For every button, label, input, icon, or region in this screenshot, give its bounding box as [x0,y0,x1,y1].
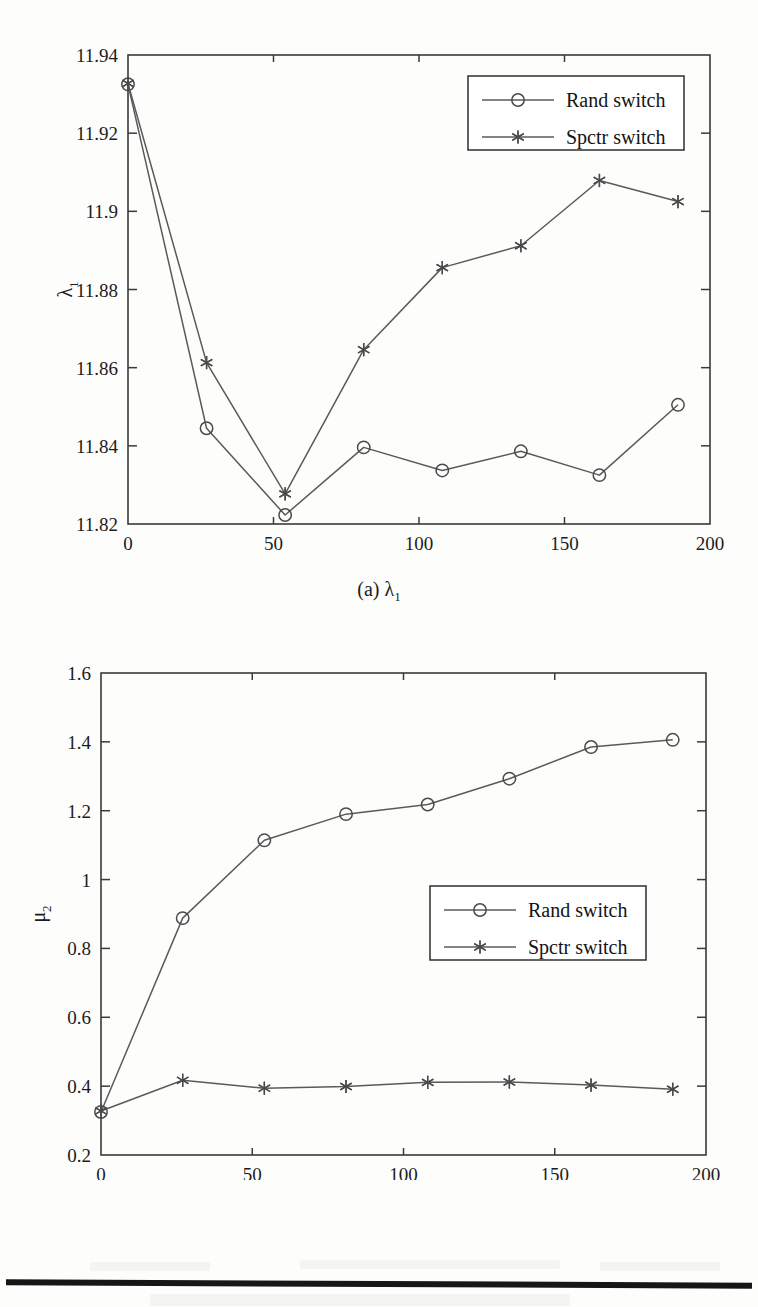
y-tick-label: 0.8 [67,938,91,959]
plot-area-a: 05010015020011.8211.8411.8611.8811.911.9… [0,0,758,560]
y-tick-label: 11.92 [76,123,118,144]
legend-label-1: Rand switch [528,899,627,921]
data-point-asterisk [279,487,290,500]
y-tick-label: 1.2 [67,801,91,822]
figure-page: 05010015020011.8211.8411.8611.8811.911.9… [0,0,758,1307]
caption-a-subscript: 1 [394,589,401,604]
y-tick-label: 11.9 [85,201,118,222]
y-tick-label: 0.2 [67,1145,91,1166]
y-axis-title: μ2 [27,905,54,922]
y-tick-label: 0.6 [67,1007,91,1028]
data-point-asterisk [594,174,605,187]
legend: Rand switchSpctr switch [468,76,684,150]
data-point-asterisk [515,239,526,252]
svg-text:μ2: μ2 [27,905,54,922]
figure-panel-b: 0501001502000.20.40.60.811.21.41.6μ2kRan… [0,620,758,1240]
x-tick-label: 50 [243,1164,262,1180]
legend-label-1: Rand switch [566,89,665,111]
data-point-asterisk [672,195,683,208]
x-tick-label: 100 [389,1164,418,1180]
y-tick-label: 11.82 [76,514,118,535]
legend: Rand switchSpctr switch [430,886,646,960]
data-point-circle [672,399,684,411]
legend-label-2: Spctr switch [528,936,627,959]
y-tick-label: 0.4 [67,1076,91,1097]
y-tick-label: 1.6 [67,663,91,684]
y-tick-label: 1.4 [67,732,91,753]
chart-b-svg: 0501001502000.20.40.60.811.21.41.6μ2kRan… [0,620,758,1180]
y-tick-label: 11.88 [76,280,118,301]
chart-a-svg: 05010015020011.8211.8411.8611.8811.911.9… [0,0,758,560]
y-tick-label: 1 [82,870,92,891]
caption-a: (a) λ1 [0,578,758,605]
plot-area-b: 0501001502000.20.40.60.811.21.41.6μ2kRan… [0,620,758,1180]
x-tick-label: 200 [692,1164,721,1180]
page-bottom-rule [6,1279,752,1288]
y-tick-label: 11.94 [76,45,119,66]
caption-a-symbol: λ [385,578,395,600]
caption-a-prefix: (a) [357,578,379,600]
x-tick-label: 150 [550,533,579,554]
x-tick-label: 0 [96,1164,106,1180]
x-tick-label: 0 [123,533,133,554]
legend-label-2: Spctr switch [566,126,665,149]
figure-panel-a: 05010015020011.8211.8411.8611.8811.911.9… [0,0,758,620]
y-tick-label: 11.86 [76,358,118,379]
y-tick-label: 11.84 [76,436,119,457]
x-tick-label: 200 [696,533,725,554]
x-tick-label: 100 [405,533,434,554]
x-tick-label: 50 [264,533,283,554]
x-tick-label: 150 [541,1164,570,1180]
series-line-2 [101,1080,673,1111]
data-point-asterisk [201,356,212,369]
